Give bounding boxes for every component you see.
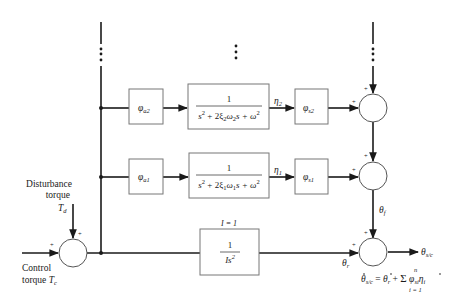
rigid-tf-numerator: 1 [228, 240, 233, 250]
svg-text:+: + [364, 229, 368, 236]
control-label-line2: torque Tc [22, 275, 57, 286]
svg-text:+: + [364, 152, 368, 159]
svg-text:+: + [78, 230, 82, 237]
tf2-denominator: s2 + 2ξ2ω2s + ω2 [198, 109, 259, 122]
theta-r-label: θr [342, 258, 350, 269]
diagram-svg: Disturbance torque Td Control torque Tc … [0, 0, 456, 304]
summing-junction-input [59, 239, 87, 267]
summing-junction-top [359, 94, 387, 122]
svg-text:+: + [50, 241, 54, 248]
tf1-denominator: s2 + 2ξ1ω1s + ω2 [198, 178, 259, 191]
sum-upper-limit: n [414, 266, 417, 273]
theta-f-label: θf [379, 205, 387, 216]
inertia-param-label: I = 1 [220, 219, 237, 228]
svg-text:+: + [352, 166, 356, 173]
disturbance-label-line2: torque [46, 190, 70, 200]
eta2-label: η2 [274, 96, 283, 107]
tf1-numerator: 1 [227, 163, 232, 173]
eta1-label: η1 [274, 165, 282, 176]
junction-dot [99, 106, 103, 110]
svg-text:+: + [352, 241, 356, 248]
summing-junction-mid [359, 162, 387, 190]
tf-block-mode2 [188, 84, 269, 129]
sum-lower-limit: i = 1 [409, 286, 422, 293]
svg-text:+: + [352, 98, 356, 105]
control-label-line1: Control [22, 263, 51, 273]
output-equation: θs/c = θr + Σ φsiηi [361, 272, 425, 285]
tf-block-mode1 [189, 153, 269, 198]
junction-dot [99, 251, 103, 255]
disturbance-symbol: Td [58, 203, 67, 214]
disturbance-label-line1: Disturbance [26, 179, 72, 189]
summing-junction-output [359, 238, 387, 266]
block-diagram: Disturbance torque Td Control torque Tc … [0, 0, 456, 304]
svg-text:+: + [364, 85, 368, 92]
tf2-numerator: 1 [227, 94, 232, 104]
theta-sc-output-label: θs/c [421, 247, 433, 258]
junction-dot [99, 175, 103, 179]
